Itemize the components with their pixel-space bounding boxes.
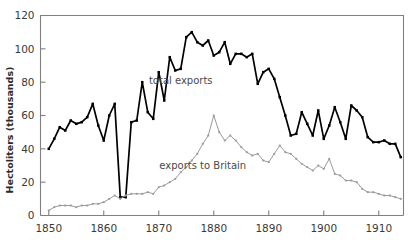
series-marker	[174, 178, 176, 180]
series-marker	[378, 141, 381, 144]
y-tick-label: 100	[14, 43, 34, 55]
series-marker	[350, 104, 353, 107]
series-marker	[114, 195, 116, 197]
series-marker	[108, 114, 111, 117]
series-marker	[213, 115, 215, 117]
series-marker	[103, 201, 105, 203]
series-marker	[290, 134, 293, 137]
series-marker	[361, 116, 364, 119]
series-marker	[268, 68, 271, 71]
series-marker	[218, 131, 220, 133]
series-marker	[361, 188, 363, 190]
series-marker	[334, 106, 337, 109]
series-marker	[301, 163, 303, 165]
series-marker	[235, 140, 237, 142]
series-marker	[240, 146, 242, 148]
series-marker	[191, 31, 194, 33]
series-marker	[356, 109, 359, 112]
series-marker	[207, 135, 209, 137]
series-marker	[86, 116, 89, 119]
series-marker	[317, 109, 320, 112]
series-marker	[169, 56, 172, 59]
series-marker	[284, 151, 286, 153]
series-marker	[290, 153, 292, 155]
series-marker	[147, 191, 149, 193]
series-marker	[147, 111, 150, 114]
series-marker	[158, 186, 160, 188]
series-marker	[70, 205, 72, 207]
series-marker	[394, 143, 397, 146]
series-marker	[169, 181, 171, 183]
x-tick-label: 1910	[365, 222, 392, 234]
series-marker	[246, 151, 248, 153]
series-marker	[64, 129, 67, 132]
series-marker	[59, 205, 61, 207]
series-marker	[81, 121, 84, 124]
series-marker	[372, 141, 375, 144]
series-marker	[218, 51, 221, 54]
series-marker	[251, 155, 253, 157]
y-tick-label: 40	[21, 143, 34, 155]
series-marker	[323, 168, 325, 170]
series-marker	[345, 180, 347, 182]
series-marker	[202, 143, 204, 145]
x-tick-label: 1860	[90, 222, 117, 234]
series-marker	[240, 53, 243, 56]
series-marker	[196, 41, 199, 44]
series-marker	[130, 121, 133, 124]
series-marker	[262, 71, 265, 74]
series-marker	[279, 96, 282, 99]
series-marker	[229, 135, 231, 137]
series-marker	[262, 160, 264, 162]
series-marker	[103, 139, 106, 142]
series-marker	[152, 193, 154, 195]
series-marker	[114, 103, 117, 106]
series-marker	[345, 138, 348, 141]
chart-background	[0, 0, 416, 252]
series-marker	[81, 205, 83, 207]
series-marker	[339, 175, 341, 177]
series-marker	[312, 170, 314, 172]
series-marker	[125, 195, 127, 197]
series-marker	[136, 119, 139, 122]
series-marker	[328, 124, 331, 127]
series-marker	[356, 181, 358, 183]
y-axis-title: Hectoliters (thousands)	[4, 67, 15, 194]
series-marker	[86, 205, 88, 207]
series-marker	[97, 203, 99, 205]
series-marker	[372, 191, 374, 193]
series-marker	[163, 99, 166, 102]
series-marker	[136, 193, 138, 195]
series-marker	[185, 36, 188, 39]
series-marker	[306, 166, 308, 168]
series-marker	[75, 206, 77, 208]
series-marker	[389, 195, 391, 197]
series-marker	[257, 83, 260, 86]
series-marker	[394, 196, 396, 198]
series-marker	[284, 114, 287, 117]
y-tick-label: 60	[21, 109, 34, 121]
series-marker	[180, 171, 182, 173]
series-marker	[279, 145, 281, 147]
series-marker	[53, 138, 56, 141]
x-tick-label: 1870	[145, 222, 172, 234]
x-tick-label: 1850	[35, 222, 62, 234]
series-marker	[350, 180, 352, 182]
series-marker	[317, 165, 319, 167]
series-marker	[152, 118, 155, 121]
series-marker	[268, 161, 270, 163]
y-tick-label: 120	[14, 9, 34, 21]
series-marker	[295, 133, 298, 136]
series-marker	[367, 191, 369, 193]
series-marker	[306, 123, 309, 126]
series-marker	[400, 156, 403, 159]
series-marker	[119, 198, 121, 200]
series-marker	[339, 121, 342, 124]
x-tick-label: 1890	[255, 222, 282, 234]
series-marker	[213, 54, 216, 57]
series-marker	[202, 44, 205, 47]
y-tick-label: 0	[28, 209, 35, 221]
series-marker	[48, 148, 51, 151]
series-marker	[53, 206, 55, 208]
series-marker	[130, 193, 132, 195]
